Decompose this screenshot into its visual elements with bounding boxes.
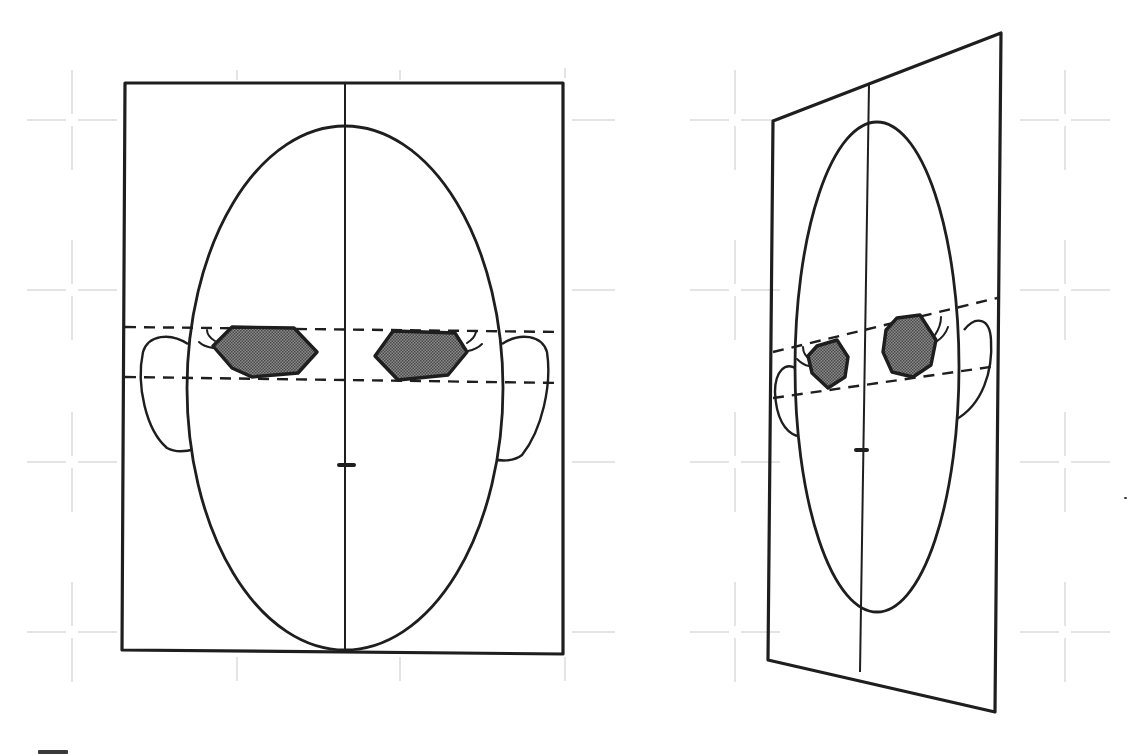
grid-cross — [690, 412, 780, 512]
grid-cross — [690, 70, 780, 170]
grid-cross — [27, 70, 117, 170]
front-view-panel — [122, 83, 563, 654]
grid-cross — [1020, 582, 1110, 682]
grid-cross — [1020, 70, 1110, 170]
right-ear — [955, 321, 991, 420]
grid-cross — [27, 412, 117, 512]
grid-cross — [690, 240, 780, 340]
grid-cross — [27, 240, 117, 340]
diagram-canvas — [0, 0, 1142, 754]
scan-specks — [38, 497, 1127, 754]
grid-cross — [690, 582, 780, 682]
speck — [1124, 497, 1127, 499]
head-panels — [122, 33, 1001, 712]
head-construction-diagram — [0, 0, 1142, 754]
grid-cross — [27, 582, 117, 682]
speck — [38, 750, 68, 754]
grid-cross — [1020, 240, 1110, 340]
grid-cross — [1020, 412, 1110, 512]
perspective-view-panel — [768, 33, 1001, 712]
